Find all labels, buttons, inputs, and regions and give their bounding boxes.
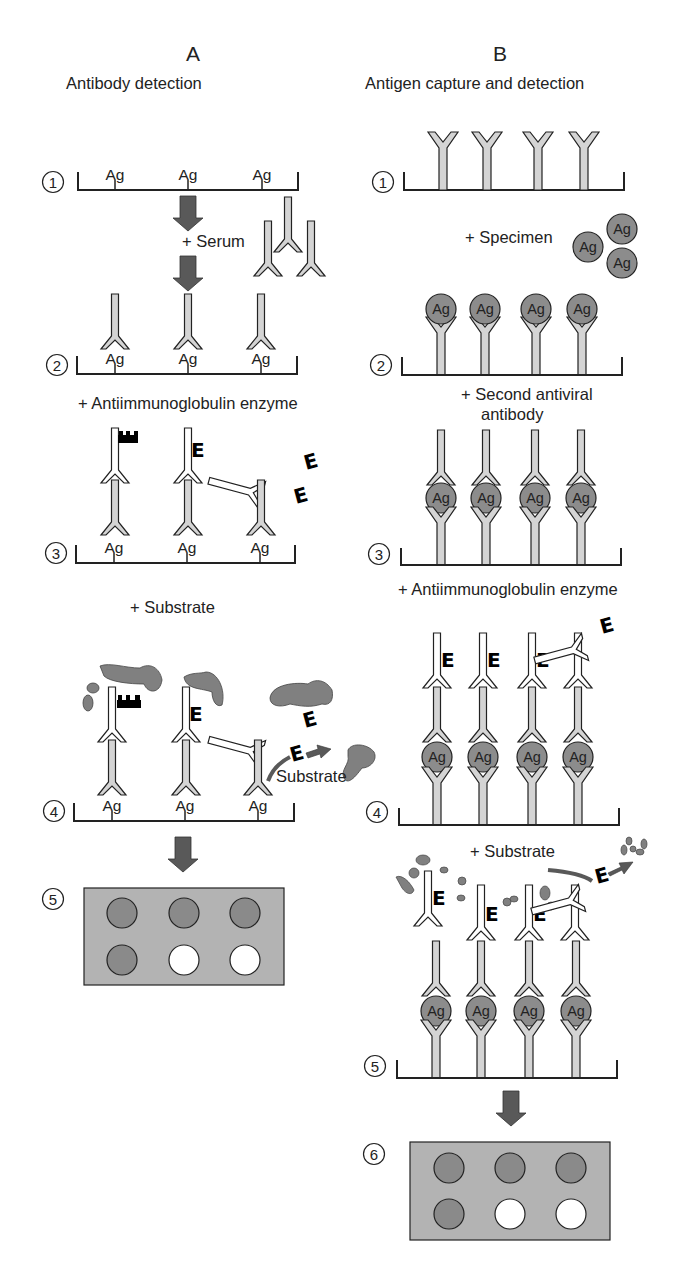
enzyme-label: E [301, 448, 320, 475]
reagent-antiimmunoglobulin-enzyme: + Antiimmunoglobulin enzyme [398, 580, 618, 598]
panel-b: B Antigen capture and detection 1 + Spec… [364, 42, 648, 1240]
antigen-label: Ag [613, 221, 631, 237]
well-positive [556, 1153, 586, 1183]
antigen-label: Ag [106, 350, 125, 367]
well-positive [107, 945, 137, 975]
antigen-label: Ag [251, 539, 270, 556]
panel-a-step-3: E E E 3 Ag Ag Ag [46, 428, 321, 564]
panel-b-step-6-plate: 6 [364, 1142, 611, 1240]
panel-b-title: Antigen capture and detection [365, 74, 584, 92]
antigen-label: Ag [249, 797, 268, 814]
antigen-label: Ag [179, 350, 198, 367]
well-positive [495, 1153, 525, 1183]
arrow-down-icon [496, 1091, 526, 1126]
panel-a-step-5-plate: 5 [43, 888, 285, 985]
antigen-label: Ag [176, 797, 195, 814]
antigen-label: Ag [477, 490, 495, 506]
antigen-label: Ag [520, 1003, 538, 1019]
well-positive [169, 898, 199, 928]
panel-b-step-5: E E E E Ag Ag Ag Ag 5 [365, 837, 648, 1078]
enzyme-label: E [287, 740, 306, 767]
antigen-label: Ag [432, 301, 450, 317]
reagent-substrate: + Substrate [130, 598, 215, 616]
well-positive [434, 1153, 464, 1183]
step-number: 1 [379, 174, 387, 191]
step-number: 5 [49, 891, 57, 908]
antigen-label: Ag [526, 490, 544, 506]
panel-b-step-3: Ag Ag Ag Ag 3 [369, 430, 622, 565]
antigen-label: Ag [474, 749, 492, 765]
panel-a-step-1: 1 Ag Ag Ag [43, 166, 299, 193]
well-negative [230, 945, 260, 975]
well-negative [556, 1199, 586, 1229]
well-surface [399, 808, 619, 825]
step-number: 5 [371, 1058, 379, 1075]
enzyme-label: E [291, 482, 310, 509]
antigen-label: Ag [103, 797, 122, 814]
well-positive [230, 898, 260, 928]
antigen-label: Ag [427, 1003, 445, 1019]
antigen-label: Ag [579, 239, 597, 255]
antigen-label: Ag [252, 350, 271, 367]
free-antigens: Ag Ag Ag [573, 214, 637, 278]
enzyme-label: E [485, 902, 499, 926]
arrow-down-icon [168, 837, 198, 872]
well-surface [397, 1060, 617, 1078]
enzyme-label: E [432, 886, 446, 910]
step-number: 2 [377, 357, 385, 374]
panel-a: A Antibody detection 1 Ag Ag Ag + Serum … [43, 42, 376, 985]
reagent-substrate: + Substrate [470, 842, 555, 860]
panel-a-title: Antibody detection [66, 74, 202, 92]
panel-a-step-2: 2 Ag Ag Ag [47, 294, 298, 376]
antigen-label: Ag [253, 166, 272, 183]
reagent-second-antiviral-antibody: + Second antiviral [461, 385, 593, 403]
enzyme-label: E [487, 648, 501, 672]
arrow-right-icon [608, 862, 633, 876]
step-number: 3 [375, 546, 383, 563]
well-surface [404, 172, 624, 190]
arrow-down-icon [173, 256, 203, 291]
step-number: 1 [49, 174, 57, 191]
step-number: 6 [370, 1146, 378, 1163]
panel-b-step-4: E E E E Ag Ag Ag Ag 4 [367, 612, 620, 825]
arrow-down-icon [173, 196, 203, 231]
well-negative [169, 945, 199, 975]
antigen-label: Ag [569, 749, 587, 765]
step-number: 4 [373, 804, 381, 821]
antigen-label: Ag [567, 1003, 585, 1019]
reagent-serum: + Serum [182, 232, 245, 250]
enzyme-label: E [191, 438, 205, 462]
antigen-label: Ag [573, 301, 591, 317]
reagent-antiimmunoglobulin-enzyme: + Antiimmunoglobulin enzyme [78, 394, 298, 412]
antigen-label: Ag [179, 166, 198, 183]
antigen-label: Ag [178, 539, 197, 556]
free-antibodies [254, 197, 325, 276]
antigen-label: Ag [472, 1003, 490, 1019]
step-number: 2 [53, 357, 61, 374]
antigen-label: Ag [432, 490, 450, 506]
well-surface [401, 548, 621, 565]
well-negative [495, 1199, 525, 1229]
antigen-label: Ag [613, 255, 631, 271]
well-positive [107, 898, 137, 928]
panel-b-step-1: 1 [373, 132, 625, 193]
elisa-diagram: A Antibody detection 1 Ag Ag Ag + Serum … [0, 0, 691, 1262]
reagent-second-antiviral-antibody-line2: antibody [481, 405, 544, 423]
well-surface [402, 357, 622, 375]
arrow-right-icon [306, 745, 331, 758]
well-positive [434, 1199, 464, 1229]
enzyme-label: E [189, 702, 203, 726]
curved-arrow-icon [548, 870, 592, 881]
antigen-label: Ag [527, 301, 545, 317]
enzyme-label: E [441, 648, 455, 672]
antigen-label: Ag [476, 301, 494, 317]
enzyme-label: E [597, 612, 616, 639]
antigen-label: Ag [428, 749, 446, 765]
enzyme-label: E [592, 862, 611, 889]
step-number: 4 [50, 803, 58, 820]
panel-a-step-4: E E E Substrate 4 Ag Ag Ag [44, 665, 376, 822]
panel-b-step-2: Ag Ag Ag Ag 2 [371, 294, 623, 376]
enzyme-label: E [300, 706, 319, 733]
panel-b-letter: B [493, 42, 507, 65]
antigen-label: Ag [523, 749, 541, 765]
